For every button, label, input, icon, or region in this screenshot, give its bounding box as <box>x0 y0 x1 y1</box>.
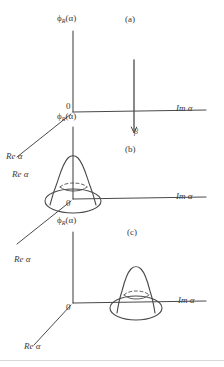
panel-a-origin-label: 0 <box>66 102 71 111</box>
panel-c-horizontal-axis-label: Im α <box>178 296 194 305</box>
phase-space-figure <box>0 0 224 367</box>
panel-c-axes <box>34 232 206 345</box>
panel-a-vertical-axis-label: ϕR(α) <box>57 14 76 24</box>
panel-b-vertical-axis-label: ϕR(α) <box>57 112 76 122</box>
panel-c-depth-axis-label: Re α <box>14 255 30 264</box>
panel-c-gaussian <box>110 267 162 320</box>
panel-c-vertical-axis-label: ϕR(α) <box>57 216 76 226</box>
panel-a-horizontal-axis-label: Im α <box>176 104 192 113</box>
panel-b-label: (b) <box>125 145 136 154</box>
panel-a-label: (a) <box>125 15 135 24</box>
panel-a-axes <box>17 31 206 157</box>
panel-b-axes <box>17 127 206 244</box>
panel-a-delta-spike <box>131 60 136 133</box>
page-edge-line <box>0 360 224 361</box>
panel-c-label: (c) <box>127 228 137 237</box>
panel-c-origin-label: 0 <box>66 303 71 312</box>
panel-b-horizontal-axis-label: Im α <box>176 192 192 201</box>
panel-b-origin-label: 0 <box>66 199 71 208</box>
panel-b-depth-axis-label: Re α <box>12 170 28 179</box>
panel-a-depth-axis-label: Re α <box>6 152 22 161</box>
panel-a-beta-label: β <box>134 128 138 136</box>
panel-c-depth-axis-label-lower: Re α <box>24 342 40 351</box>
